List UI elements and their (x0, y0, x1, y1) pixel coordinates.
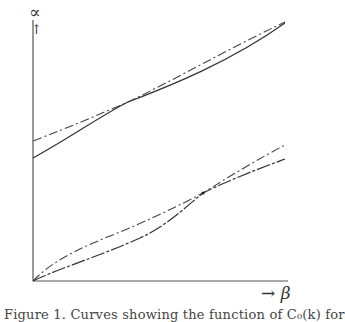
figure-caption: Figure 1. Curves showing the function of… (4, 307, 345, 322)
upper-solid-curve (33, 23, 285, 158)
lower-crossing-point (201, 191, 204, 194)
lower-dashdot-curve (33, 145, 285, 281)
upper-dashdot-curve (33, 22, 285, 141)
x-axis-label: → β (261, 283, 290, 303)
y-axis-label: ∝ (29, 2, 41, 22)
y-axis-arrow-icon: ↑ (31, 22, 42, 37)
lower-solid-curve (33, 159, 285, 281)
